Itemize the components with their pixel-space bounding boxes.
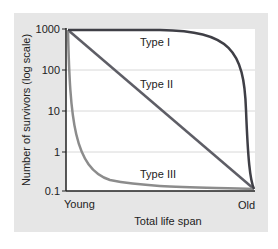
- y-axis-title: Number of survivors (log scale): [20, 34, 32, 186]
- y-tick-100: 100: [42, 64, 60, 76]
- y-tick-0.1: 0.1: [45, 185, 60, 197]
- label-type-1: Type I: [140, 36, 170, 48]
- label-type-2: Type II: [140, 78, 173, 90]
- survivorship-chart: 1000 100 10 1 0.1 Type I Type II Type II…: [0, 0, 278, 249]
- y-tick-1000: 1000: [36, 23, 60, 35]
- y-tick-1: 1: [54, 146, 60, 158]
- x-axis-title: Total life span: [134, 215, 201, 227]
- y-tick-10: 10: [48, 105, 60, 117]
- label-type-3: Type III: [140, 168, 176, 180]
- x-tick-young: Young: [64, 198, 95, 210]
- x-tick-old: Old: [238, 199, 255, 211]
